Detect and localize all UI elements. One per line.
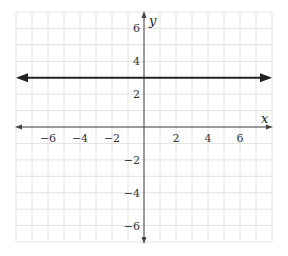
x-tick-label: −2 [104,132,120,145]
line-right-arrow-icon [260,73,272,82]
y-tick-label: −6 [124,220,140,233]
x-tick-label: 6 [237,132,244,145]
y-tick-label: 4 [133,55,140,68]
y-axis-label: y [148,13,157,28]
y-tick-label: 6 [133,22,140,35]
x-axis-label: x [261,111,269,126]
y-tick-label: −2 [124,154,140,167]
x-tick-label: 2 [173,132,180,145]
y-tick-label: 2 [133,88,140,101]
x-tick-label: −4 [72,132,88,145]
coordinate-plane: x y −6−4−2246642−2−4−6 [0,0,288,256]
x-tick-label: 4 [205,132,212,145]
x-tick-label: −6 [40,132,56,145]
line-left-arrow-icon [16,73,28,82]
y-tick-label: −4 [124,187,140,200]
y-axis-bottom-arrow-icon [142,237,147,244]
